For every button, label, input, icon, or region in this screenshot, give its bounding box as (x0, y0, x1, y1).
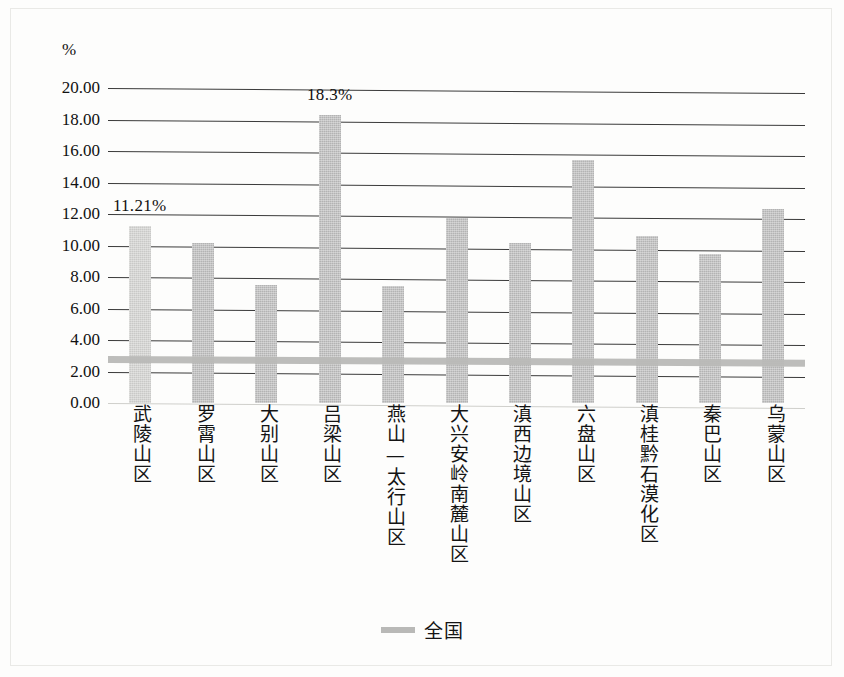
y-axis-tick-labels: 20.0018.0016.0014.0012.0010.008.006.004.… (20, 88, 100, 403)
bar-value-label: 18.3% (290, 85, 370, 105)
bar (636, 236, 658, 403)
legend-swatch-icon (381, 627, 415, 633)
bar (509, 243, 531, 403)
bar (192, 243, 214, 403)
y-axis-unit-label: % (62, 40, 77, 60)
x-axis-category-label: 六盘山区 (571, 404, 595, 484)
y-axis-tick-label: 16.00 (26, 142, 100, 159)
x-axis-category-label: 燕山—太行山区 (381, 404, 405, 547)
y-axis-tick-label: 14.00 (26, 174, 100, 191)
gridline (108, 88, 805, 94)
bar (762, 209, 784, 403)
y-axis-tick-label: 4.00 (26, 331, 100, 348)
x-axis-category-label: 滇西边境山区 (508, 404, 532, 524)
bar (129, 226, 151, 403)
y-axis-tick-label: 6.00 (26, 300, 100, 317)
bar-value-label: 11.21% (100, 196, 180, 216)
x-axis-category-label: 乌蒙山区 (761, 404, 785, 484)
bar (446, 218, 468, 403)
y-axis-tick-label: 20.00 (26, 79, 100, 96)
legend-label: 全国 (424, 616, 464, 643)
y-axis-tick-label: 8.00 (26, 268, 100, 285)
chart-legend: 全国 (0, 616, 844, 643)
x-axis-category-labels: 武陵山区罗霄山区大别山区吕梁山区燕山—太行山区大兴安岭南麓山区滇西边境山区六盘山… (108, 404, 805, 599)
x-axis-category-label: 秦巴山区 (698, 404, 722, 484)
x-axis-category-label: 滇桂黔石漠化区 (635, 404, 659, 544)
bar (699, 254, 721, 403)
y-axis-tick-label: 12.00 (26, 205, 100, 222)
x-axis-category-label: 大兴安岭南麓山区 (445, 404, 469, 564)
x-axis-category-label: 吕梁山区 (318, 404, 342, 484)
x-axis-category-label: 大别山区 (254, 404, 278, 484)
x-axis-category-label: 罗霄山区 (191, 404, 215, 484)
x-axis-category-label: 武陵山区 (128, 404, 152, 484)
gridline (108, 151, 805, 157)
y-axis-tick-label: 0.00 (26, 394, 100, 411)
gridline (108, 183, 805, 189)
plot-area: 11.21%18.3% (108, 88, 805, 403)
bar (255, 285, 277, 403)
chart-figure: % 20.0018.0016.0014.0012.0010.008.006.00… (0, 0, 844, 677)
y-axis-tick-label: 18.00 (26, 111, 100, 128)
y-axis-tick-label: 2.00 (26, 363, 100, 380)
gridline (108, 120, 805, 126)
bar (572, 160, 594, 403)
y-axis-tick-label: 10.00 (26, 237, 100, 254)
bar (382, 286, 404, 403)
